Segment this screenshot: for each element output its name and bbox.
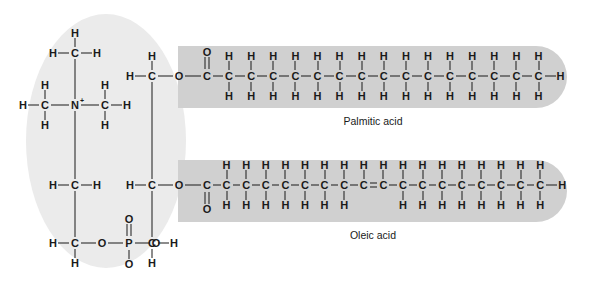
oleic-c2: C <box>223 180 231 191</box>
palmitic-c10: C <box>402 71 410 82</box>
glycerol-c1-ester-oxygen: O <box>175 71 184 82</box>
oleic-c13-h-up: H <box>438 160 446 171</box>
palmitic-c9: C <box>380 71 388 82</box>
oleic-c4-h-up: H <box>262 160 270 171</box>
choline-nitrogen-positive-charge: + <box>80 97 84 104</box>
bond-n-ethylupper <box>75 111 76 179</box>
palmitic-c5: C <box>291 71 299 82</box>
bond-palmitic-c3-hup <box>251 61 252 70</box>
bond-oleic-c8-hup <box>344 170 345 179</box>
palmitic-carbonyl-oxygen: O <box>203 47 212 58</box>
choline-methyl-top-h-left: H <box>49 48 57 59</box>
glycerol-c1: C <box>148 71 156 82</box>
oleic-c10-h-up: H <box>379 160 387 171</box>
bond-palmitic-c7-c8 <box>346 76 356 77</box>
choline-ethyl-lower-h-down: H <box>71 258 79 269</box>
bond-palmitic-c1-c2 <box>213 76 223 77</box>
oleic-c15-h-down: H <box>477 200 485 211</box>
palmitic-c16: C <box>535 71 543 82</box>
oleic-c11-h-down: H <box>399 200 407 211</box>
oleic-carbonyl-oxygen: O <box>203 204 212 215</box>
bond-oleic-c2-c3 <box>233 185 241 186</box>
bond-oleic-c8-c9 <box>350 185 358 186</box>
glycerol-c2-ester-oxygen: O <box>175 180 184 191</box>
glycerol-c3-h-down: H <box>148 258 156 269</box>
oleic-c5-h-up: H <box>281 160 289 171</box>
bond-oleic-c9-c10-double-a <box>370 183 378 184</box>
bond-oleic-c14-hup <box>461 170 462 179</box>
bond-methyltop-hleft <box>58 53 69 54</box>
oleic-c4: C <box>262 180 270 191</box>
bond-methylright-hright <box>111 105 122 106</box>
bond-palmitic-c7-hup <box>339 61 340 70</box>
bond-palmitic-c2-hup <box>229 61 230 70</box>
oleic-c13: C <box>438 180 446 191</box>
choline-methyl-top-h-up: H <box>71 28 79 39</box>
bond-ethyllower-hleft <box>58 243 69 244</box>
bond-palmitic-c6-c7 <box>324 76 334 77</box>
oleic-c7-h-down: H <box>321 200 329 211</box>
bond-oleic-c12-c13 <box>429 185 437 186</box>
choline-ethyl-upper-h-right: H <box>93 180 101 191</box>
choline-methyl-left-h-up: H <box>41 80 49 91</box>
choline-methyl-top-h-right: H <box>93 48 101 59</box>
palmitic-c10-h-down: H <box>402 91 410 102</box>
bond-palmitic-c11-c12 <box>434 76 444 77</box>
oleic-c6-h-up: H <box>301 160 309 171</box>
oleic-c17: C <box>517 180 525 191</box>
palmitic-c8-h-up: H <box>358 51 366 62</box>
oleic-c15-h-up: H <box>477 160 485 171</box>
bond-palmitic-c14-hup <box>494 61 495 70</box>
bond-glycerolC1-esterO <box>158 76 173 77</box>
bond-esterO-p <box>108 243 123 244</box>
glycerol-c3: C <box>148 238 156 249</box>
palmitic-c10-h-up: H <box>402 51 410 62</box>
bond-oleic-c11-hup <box>403 170 404 179</box>
palmitic-c3: C <box>247 71 255 82</box>
oleic-c14: C <box>458 180 466 191</box>
bond-n-methylright <box>81 105 99 106</box>
palmitic-c11-h-down: H <box>424 91 432 102</box>
oleic-c6: C <box>301 180 309 191</box>
bond-palmitic-c15-c16 <box>522 76 532 77</box>
palmitic-c4: C <box>269 71 277 82</box>
bond-oleic-c13-c14 <box>448 185 456 186</box>
bond-oleic-c14-c15 <box>468 185 476 186</box>
glycerol-c1-h-left: H <box>126 71 134 82</box>
choline-nitrogen: N <box>71 100 79 111</box>
palmitic-c2-h-up: H <box>225 51 233 62</box>
palmitic-c5-h-up: H <box>291 51 299 62</box>
palmitic-c6-h-up: H <box>314 51 322 62</box>
bond-oleic-c9-hup <box>363 170 364 179</box>
bond-glycerolC3-h <box>158 243 169 244</box>
oleic-c8: C <box>340 180 348 191</box>
oleic-c17-h-down: H <box>517 200 525 211</box>
bond-palmitic-c10-hup <box>405 61 406 70</box>
oleic-c16-h-down: H <box>497 200 505 211</box>
bond-oleic-c5-c6 <box>291 185 299 186</box>
bond-ethylupper-hright <box>81 185 92 186</box>
oleic-c16-h-up: H <box>497 160 505 171</box>
oleic-c18: C <box>536 180 544 191</box>
palmitic-c7: C <box>336 71 344 82</box>
oleic-c14-h-up: H <box>458 160 466 171</box>
oleic-c11-h-up: H <box>399 160 407 171</box>
bond-palmitic-c4-hup <box>273 61 274 70</box>
oleic-c4-h-down: H <box>262 200 270 211</box>
bond-palmitic-c15-hup <box>516 61 517 70</box>
palmitic-c4-h-up: H <box>269 51 277 62</box>
bond-p-doubleO-a <box>127 224 128 236</box>
phosphate-double-bond-oxygen: O <box>125 214 134 225</box>
bond-oleic-c1-c2 <box>213 185 221 186</box>
bond-methyltop-hright <box>81 53 92 54</box>
oleic-c14-h-down: H <box>458 200 466 211</box>
bond-palmitic-c2-c3 <box>235 76 245 77</box>
bond-ethyllower-esterO <box>81 243 96 244</box>
bond-ethylupper-ethyllower <box>75 191 76 237</box>
bond-glycerolC2-esterO <box>158 185 173 186</box>
bond-oleic-c10-c11 <box>389 185 397 186</box>
palmitic-c1: C <box>203 71 211 82</box>
oleic-c2-h-up: H <box>223 160 231 171</box>
palmitic-acid-label: Palmitic acid <box>344 115 403 127</box>
palmitic-c15-h-up: H <box>512 51 520 62</box>
